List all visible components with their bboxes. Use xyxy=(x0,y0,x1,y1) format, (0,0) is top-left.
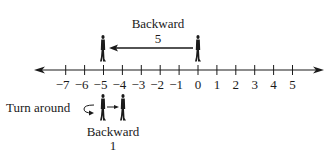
tick-label: −2 xyxy=(150,77,164,92)
tick-label: 2 xyxy=(233,77,240,92)
number-line-diagram: −7−6−5−4−3−2−1012345 Backward 5 Turn aro… xyxy=(0,0,329,152)
walker-figure-at-0 xyxy=(195,35,201,62)
top-move: Backward 5 xyxy=(100,16,201,62)
top-move-label-line1: Backward xyxy=(132,16,185,31)
bottom-move-label-line1: Backward xyxy=(87,124,140,139)
tick-label: −4 xyxy=(112,77,126,92)
walker-figure-at-minus-4 xyxy=(120,94,126,121)
bottom-move: Turn around Backward 1 xyxy=(6,94,140,152)
top-move-label-line2: 5 xyxy=(155,31,162,46)
walker-figure-at-minus-5 xyxy=(100,35,106,62)
tick-label: 4 xyxy=(270,77,277,92)
ticks: −7−6−5−4−3−2−1012345 xyxy=(56,65,296,92)
tick-label: −7 xyxy=(56,77,70,92)
tick-label: 1 xyxy=(214,77,221,92)
tick-label: −3 xyxy=(131,77,145,92)
tick-label: −5 xyxy=(94,77,108,92)
tick-label: 0 xyxy=(195,77,202,92)
tick-label: −1 xyxy=(169,77,183,92)
bottom-move-label-line2: 1 xyxy=(110,138,117,152)
tick-label: 3 xyxy=(251,77,258,92)
tick-label: 5 xyxy=(289,77,296,92)
turn-around-label: Turn around xyxy=(6,100,71,115)
arrow-right-icon xyxy=(114,105,119,109)
tick-label: −6 xyxy=(75,77,89,92)
walker-figure-turned-at-minus-5 xyxy=(100,94,106,121)
